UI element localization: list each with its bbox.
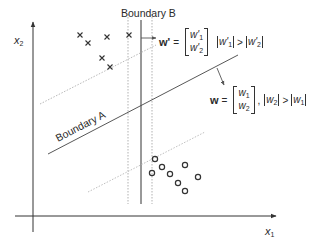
- w-prime-row2-sub: 2: [199, 47, 203, 54]
- w-prime-row1-text: w': [190, 29, 199, 40]
- w-prime-row2: w'2: [190, 42, 203, 55]
- w-prime-cond-right-text: w': [248, 36, 257, 47]
- boundary-a-label: Boundary A: [53, 108, 107, 144]
- w-cond-left: w2: [264, 94, 279, 106]
- y-axis-label: x2: [14, 35, 23, 47]
- w-cond-right-sub: 1: [301, 99, 305, 106]
- w-cond-right: w1: [291, 94, 306, 106]
- w-row1-text: w: [238, 87, 245, 98]
- w-prime-cond-left-sub: 1: [228, 41, 232, 48]
- cross-marker: [105, 35, 110, 40]
- w-prime-cond-left-text: w': [219, 36, 228, 47]
- circle-marker: [167, 171, 172, 176]
- cross-marker: [100, 56, 105, 61]
- w-cond-left-text: w: [266, 94, 273, 105]
- boundary-a-margin-upper: [40, 45, 156, 104]
- cross-marker: [127, 33, 132, 38]
- diagram-canvas: Boundary A: [0, 0, 311, 249]
- boundary-b-label: Boundary B: [121, 8, 176, 19]
- w-prime-equation: w' = w'1 w'2 w'1 > w'2: [159, 28, 264, 56]
- equals-sign: =: [222, 95, 228, 106]
- w-prime-row2-text: w': [190, 42, 199, 53]
- boundary-a-normal-arrow: [217, 68, 224, 85]
- greater-than-sign: >: [237, 37, 243, 48]
- w-prime-cond-right-sub: 2: [257, 41, 261, 48]
- boundary-a-margin-lower: [88, 132, 205, 192]
- w-row2: w2: [238, 100, 249, 113]
- comma: ,: [258, 95, 261, 106]
- w-row1: w1: [238, 87, 249, 100]
- w-prime-cond-left: w'1: [217, 36, 234, 48]
- w-row2-sub: 2: [246, 105, 250, 112]
- w-prime-symbol: w': [159, 36, 170, 48]
- circle-marker: [195, 174, 200, 179]
- class-circle-markers: [149, 156, 200, 193]
- cross-marker: [86, 41, 91, 46]
- w-prime-row1: w'1: [190, 29, 203, 42]
- x-axis-label-sub: 1: [271, 231, 275, 238]
- greater-than-sign: >: [282, 95, 288, 106]
- circle-marker: [182, 162, 187, 167]
- w-equation: w = w1 w2 , w2 > w1: [210, 86, 307, 114]
- w-prime-cond-right: w'2: [246, 36, 263, 48]
- cross-marker: [78, 33, 83, 38]
- w-row2-text: w: [238, 100, 245, 111]
- circle-marker: [182, 188, 187, 193]
- w-prime-row1-sub: 1: [199, 34, 203, 41]
- w-prime-vector: w'1 w'2: [185, 28, 208, 56]
- w-symbol: w: [210, 94, 219, 106]
- class-cross-markers: [78, 33, 132, 70]
- equals-sign: =: [173, 37, 179, 48]
- x-axis-label: x1: [265, 226, 274, 238]
- circle-marker: [159, 164, 164, 169]
- w-cond-left-sub: 2: [274, 99, 278, 106]
- w-row1-sub: 1: [246, 92, 250, 99]
- w-vector: w1 w2: [233, 86, 254, 114]
- circle-marker: [175, 180, 180, 185]
- w-cond-right-text: w: [293, 94, 300, 105]
- y-axis-label-sub: 2: [20, 40, 24, 47]
